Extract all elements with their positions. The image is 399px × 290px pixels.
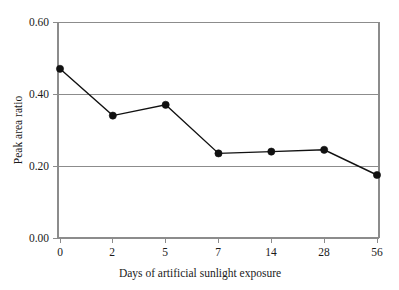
- x-tick-label-4: 14: [265, 246, 277, 258]
- x-tick-label-2: 5: [162, 246, 168, 258]
- plot-area: [58, 22, 379, 238]
- data-point: 7: 0.235: [215, 150, 222, 157]
- x-tick-label-1: 2: [109, 246, 115, 258]
- x-tick-label-6: 56: [371, 246, 383, 258]
- data-point: 5: 0.37: [162, 101, 169, 108]
- y-tick-label-1: 0.40: [29, 88, 49, 100]
- data-point: 14: 0.24: [268, 148, 275, 155]
- y-tick-label-2: 0.20: [29, 160, 49, 172]
- line-chart: 0.60 0.40 0.20 0.00 0 2 5 7 14 28 56 Day…: [0, 0, 399, 290]
- data-point: 0: 0.47: [56, 65, 63, 72]
- y-tick-label-0: 0.60: [29, 16, 49, 28]
- data-point: 2: 0.34: [109, 112, 116, 119]
- x-tick-label-5: 28: [318, 246, 330, 258]
- chart-container: 0.60 0.40 0.20 0.00 0 2 5 7 14 28 56 Day…: [0, 0, 399, 290]
- x-tick-label-3: 7: [215, 246, 221, 258]
- data-point: 28: 0.245: [321, 146, 328, 153]
- data-point: 56: 0.175: [373, 171, 380, 178]
- y-tick-label-3: 0.00: [29, 232, 49, 244]
- x-tick-label-0: 0: [57, 246, 63, 258]
- x-axis-title: Days of artificial sunlight exposure: [119, 267, 281, 280]
- y-axis-title: Peak area ratio: [12, 96, 24, 165]
